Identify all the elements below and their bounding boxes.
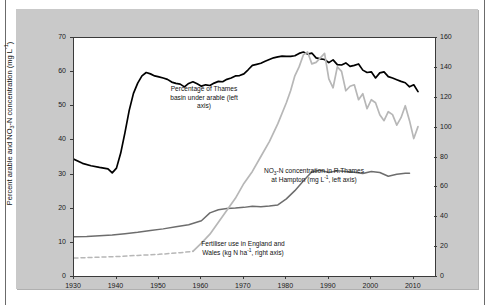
y-right-tick-label-120: 120 [440,93,466,100]
y-left-tick-label-0: 0 [40,272,66,279]
x-tick-label-2010: 2010 [397,282,429,289]
x-tick-label-1950: 1950 [142,282,174,289]
y-axis-left-title: Percent arable and NO3-N concentration (… [5,0,14,289]
y-left-tick-label-40: 40 [40,135,66,142]
y-left-tickmark-50 [70,105,73,106]
y-right-tick-label-140: 140 [440,63,466,70]
y-left-tick-label-20: 20 [40,204,66,211]
y-right-tickmark-40 [434,216,437,217]
x-tick-label-1980: 1980 [269,282,301,289]
series-line-3 [193,52,418,251]
x-tick-label-1970: 1970 [227,282,259,289]
y-left-tickmark-40 [70,139,73,140]
y-right-tickmark-140 [434,67,437,68]
annotation-nitrate: NO3-N concentration in R.Thames at Hampt… [249,167,379,184]
y-right-tick-label-40: 40 [440,212,466,219]
annotation-arable: Percentage of Thames basin under arable … [150,85,258,111]
y-left-tickmark-20 [70,208,73,209]
y-right-tickmark-120 [434,97,437,98]
x-tick-label-1940: 1940 [99,282,131,289]
x-tickmark-1960 [200,276,201,279]
x-tickmark-2010 [413,276,414,279]
x-tickmark-1950 [158,276,159,279]
y-right-tickmark-0 [434,276,437,277]
y-right-tick-label-20: 20 [440,242,466,249]
y-left-tickmark-30 [70,174,73,175]
y-left-tick-label-50: 50 [40,101,66,108]
x-tickmark-1990 [328,276,329,279]
y-left-tickmark-10 [70,242,73,243]
x-tickmark-1980 [285,276,286,279]
x-tickmark-2000 [370,276,371,279]
x-tick-label-1930: 1930 [57,282,89,289]
y-left-tickmark-60 [70,71,73,72]
series-line-0 [74,52,418,173]
y-right-tick-label-0: 0 [440,272,466,279]
x-tickmark-1970 [243,276,244,279]
plot-area: Percentage of Thames basin under arable … [73,37,435,277]
y-left-tickmark-70 [70,37,73,38]
x-tickmark-1940 [116,276,117,279]
y-right-tickmark-100 [434,127,437,128]
y-left-tick-label-10: 10 [40,238,66,245]
y-right-tickmark-20 [434,246,437,247]
annotation-fertiliser: Fertiliser use in England and Wales (kg … [176,240,310,257]
y-right-tickmark-160 [434,37,437,38]
y-left-tick-label-60: 60 [40,67,66,74]
y-right-tickmark-60 [434,186,437,187]
y-right-tick-label-80: 80 [440,153,466,160]
page-rule-right [484,0,485,305]
x-tick-label-1960: 1960 [184,282,216,289]
x-tick-label-2000: 2000 [354,282,386,289]
y-right-tick-label-60: 60 [440,182,466,189]
y-left-tick-label-70: 70 [40,33,66,40]
figure-root: Percent arable and NO3-N concentration (… [0,0,491,305]
y-right-tick-label-100: 100 [440,123,466,130]
y-right-tick-label-160: 160 [440,33,466,40]
chart-panel: Percent arable and NO3-N concentration (… [16,9,478,289]
y-right-tickmark-80 [434,157,437,158]
x-tickmark-1930 [73,276,74,279]
x-tick-label-1990: 1990 [312,282,344,289]
y-left-tick-label-30: 30 [40,170,66,177]
